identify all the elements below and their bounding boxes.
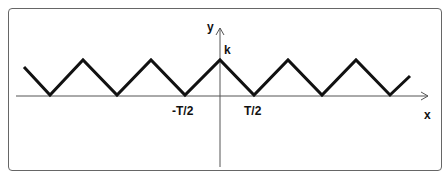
triangle-wave-plot <box>0 0 448 182</box>
y-axis-label: y <box>207 20 214 34</box>
x-axis-label: x <box>424 108 431 122</box>
y-axis <box>216 28 224 167</box>
pos-half-period-label: T/2 <box>244 104 261 118</box>
neg-half-period-label: -T/2 <box>172 104 193 118</box>
x-axis <box>16 92 428 100</box>
amplitude-label: k <box>224 43 231 57</box>
triangle-wave <box>24 60 410 95</box>
